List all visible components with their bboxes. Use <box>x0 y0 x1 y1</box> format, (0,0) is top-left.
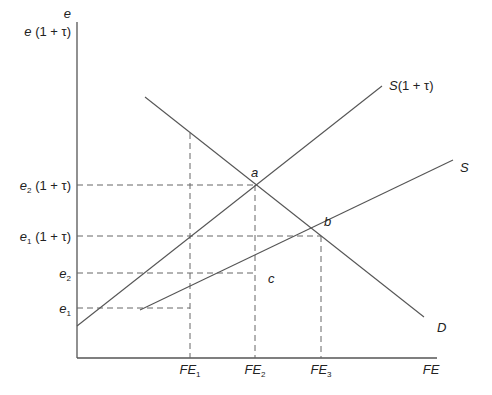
x-axis-label: FE <box>423 362 440 377</box>
x-tick-fe1: FE1 <box>179 362 201 379</box>
supply-taxed-curve <box>77 86 382 326</box>
demand-curve <box>145 97 424 317</box>
demand-label: D <box>437 320 446 335</box>
y-axis-label-e: e <box>64 6 71 21</box>
x-tick-fe3: FE3 <box>310 362 332 379</box>
point-c-label: c <box>268 271 275 286</box>
point-a-label: a <box>251 165 258 180</box>
y-tick-e1: e1 <box>59 301 71 318</box>
supply-curve <box>140 160 453 310</box>
diagram-canvas: e e (1 + τ) S(1 + τ) S D a b c e2 (1 + τ… <box>0 0 492 395</box>
y-tick-e2-tax: e2 (1 + τ) <box>20 178 71 195</box>
point-b-label: b <box>324 214 331 229</box>
y-tick-e1-tax: e1 (1 + τ) <box>20 229 71 246</box>
supply-taxed-label: S(1 + τ) <box>389 78 434 93</box>
supply-label: S <box>460 160 469 175</box>
y-axis-label-e-tax: e (1 + τ) <box>24 24 71 39</box>
x-tick-fe2: FE2 <box>244 362 266 379</box>
y-tick-e2: e2 <box>59 266 71 283</box>
